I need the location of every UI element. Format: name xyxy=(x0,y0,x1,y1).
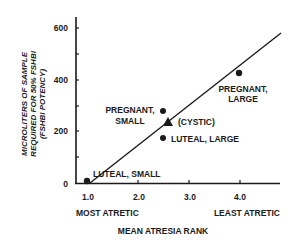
svg-text:PREGNANT,: PREGNANT, xyxy=(218,84,267,94)
scatter-chart: 600 400 200 0 1.0 2.0 3.0 4.0 MOST ATRET… xyxy=(0,0,297,243)
svg-text:1.0: 1.0 xyxy=(82,192,94,202)
svg-text:200: 200 xyxy=(54,126,68,136)
svg-text:LUTEAL, SMALL: LUTEAL, SMALL xyxy=(93,169,161,179)
x-tick-labels: 1.0 2.0 3.0 4.0 xyxy=(82,192,246,202)
svg-text:LUTEAL, LARGE: LUTEAL, LARGE xyxy=(171,134,239,144)
y-tick-labels: 600 400 200 0 xyxy=(54,23,68,189)
svg-text:LARGE: LARGE xyxy=(228,94,258,104)
svg-text:4.0: 4.0 xyxy=(234,192,246,202)
svg-text:0: 0 xyxy=(63,179,68,189)
x-axis-title: MEAN ATRESIA RANK xyxy=(118,226,209,236)
point-pregnant-small xyxy=(160,108,166,114)
svg-text:400: 400 xyxy=(54,75,68,85)
point-luteal-small xyxy=(84,178,90,184)
svg-text:3.0: 3.0 xyxy=(184,192,196,202)
svg-text:2.0: 2.0 xyxy=(133,192,145,202)
most-atretic-label: MOST ATRETIC xyxy=(76,208,139,218)
svg-text:MICROLITERS OF SAMPLE: MICROLITERS OF SAMPLE xyxy=(20,51,29,156)
svg-text:(CYSTIC): (CYSTIC) xyxy=(178,117,215,127)
point-labels: PREGNANT, SMALL (CYSTIC) LUTEAL, LARGE P… xyxy=(93,84,268,179)
svg-text:SMALL: SMALL xyxy=(115,116,144,126)
point-pregnant-large xyxy=(236,70,242,76)
svg-text:PREGNANT,: PREGNANT, xyxy=(105,105,154,115)
y-axis-title: MICROLITERS OF SAMPLE REQUIRED FOR 50% F… xyxy=(20,50,47,157)
svg-text:600: 600 xyxy=(54,23,68,33)
svg-text:REQUIRED FOR 50% FSHBI: REQUIRED FOR 50% FSHBI xyxy=(29,50,38,157)
x-ticks xyxy=(87,180,240,183)
least-atretic-label: LEAST ATRETIC xyxy=(214,208,280,218)
point-luteal-large xyxy=(160,135,166,141)
svg-text:(FSHBI POTENCY): (FSHBI POTENCY) xyxy=(38,69,47,140)
